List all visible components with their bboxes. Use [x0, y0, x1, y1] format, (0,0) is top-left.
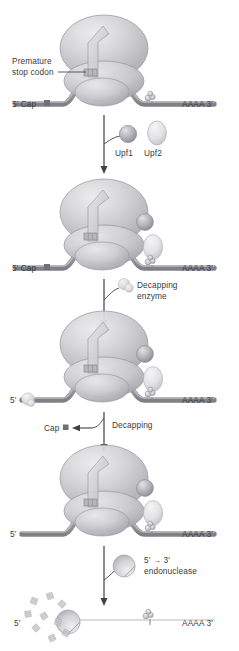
panel-5-three-prime-label: AAAA 3′: [182, 618, 213, 628]
ribosome: [60, 15, 148, 106]
panel-4-five-prime-label: 5′: [10, 529, 17, 539]
panel-2-five-prime-label: 5′ Cap: [12, 263, 37, 273]
upf2-ellipse: [143, 501, 162, 526]
cap-square-marker: [44, 100, 50, 106]
ribosome: [60, 311, 148, 402]
upf1-sphere: [119, 125, 136, 142]
premature-stop-codon-label-line2: stop codon: [12, 67, 54, 77]
figure-canvas: Premature stop codon 5′ Cap AAAA 3′ Upf1…: [0, 0, 239, 651]
stop-codon-marker: [84, 69, 97, 76]
upf2-ellipse: [148, 121, 167, 145]
decapping-enzyme-lobe: [27, 399, 34, 406]
ribosome: [60, 179, 148, 270]
panel-5-five-prime-label: 5′: [14, 618, 21, 628]
endonuclease-label-line2: endonuclease: [144, 566, 197, 576]
decapping-step-label: Decapping: [112, 420, 153, 430]
pacman-endonuclease: [113, 555, 135, 577]
nmd-pathway-diagram: Premature stop codon 5′ Cap AAAA 3′ Upf1…: [0, 0, 239, 651]
upf1-sphere: [137, 346, 154, 363]
panel-2-three-prime-label: AAAA 3′: [182, 263, 213, 273]
panel-4-three-prime-label: AAAA 3′: [182, 529, 213, 539]
panel-3-three-prime-label: AAAA 3′: [182, 395, 213, 405]
panel-1-five-prime-label: 5′ Cap: [12, 99, 37, 109]
upf2-ellipse: [143, 367, 162, 392]
ribosome: [60, 445, 148, 536]
upf1-label: Upf1: [115, 148, 133, 158]
stop-codon-marker: [84, 499, 97, 506]
upf1-sphere: [137, 214, 154, 231]
premature-stop-codon-label-line1: Premature: [12, 56, 52, 66]
panel-3-five-prime-label: 5′: [10, 395, 17, 405]
upf2-ellipse: [143, 235, 162, 260]
decapping-enzyme-label-line2: enzyme: [137, 291, 167, 301]
cap-square-marker: [63, 425, 69, 431]
endonuclease-label-line1: 5′ → 3′: [144, 555, 170, 565]
upf2-label: Upf2: [144, 148, 162, 158]
cap-released-label: Cap: [44, 423, 60, 433]
upf1-sphere: [137, 480, 154, 497]
stop-codon-marker: [84, 365, 97, 372]
decapping-enzyme-label-line1: Decapping: [137, 280, 178, 290]
cap-square-marker: [44, 264, 50, 270]
panel-1-three-prime-label: AAAA 3′: [182, 99, 213, 109]
stop-codon-marker: [84, 233, 97, 240]
